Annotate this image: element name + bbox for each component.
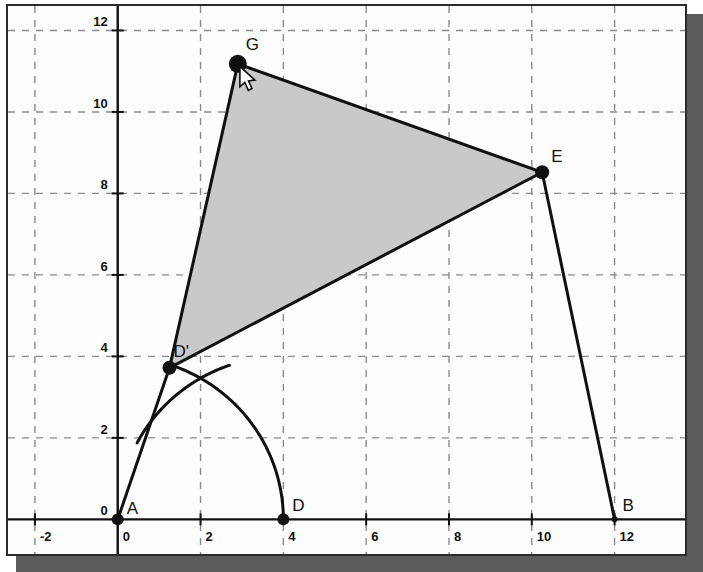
geometry-canvas[interactable]: ADBD'GE -2024681012024681012 <box>8 6 685 554</box>
x-tick-label: 4 <box>288 529 296 544</box>
y-tick-label: 0 <box>100 503 107 518</box>
y-tick-label: 10 <box>93 96 107 111</box>
shaded-triangle[interactable] <box>169 64 542 368</box>
x-tick-label: 2 <box>206 529 213 544</box>
x-tick-label: 10 <box>537 529 551 544</box>
point-marker[interactable] <box>112 513 124 525</box>
application-window: ADBD'GE -2024681012024681012 <box>0 0 703 572</box>
x-tick-label: 6 <box>371 529 378 544</box>
shaded-triangle[interactable] <box>169 64 542 368</box>
point-label: E <box>551 147 562 166</box>
point-label: D' <box>173 342 189 361</box>
x-tick-label: -2 <box>40 529 52 544</box>
segment-A-Dp[interactable] <box>118 368 170 520</box>
point-marker[interactable] <box>162 361 176 375</box>
y-tick-label: 4 <box>100 340 108 355</box>
point-label: B <box>623 496 634 515</box>
arc-centered-at-D[interactable] <box>137 365 229 443</box>
graphics-view-frame[interactable]: ADBD'GE -2024681012024681012 <box>6 4 687 556</box>
arcs-group[interactable] <box>137 365 283 519</box>
point-label: G <box>246 35 259 54</box>
x-tick-label: 8 <box>454 529 461 544</box>
point-A[interactable]: A <box>112 499 139 525</box>
x-tick-label: 0 <box>123 529 130 544</box>
y-tick-label: 6 <box>100 259 107 274</box>
point-marker[interactable] <box>277 513 289 525</box>
axes-group <box>8 6 685 554</box>
point-E[interactable]: E <box>535 147 562 179</box>
y-tick-label: 12 <box>93 14 107 29</box>
point-marker[interactable] <box>535 165 549 179</box>
y-tick-label: 8 <box>100 177 107 192</box>
point-marker[interactable] <box>612 516 618 522</box>
y-tick-label: 2 <box>100 422 107 437</box>
x-tick-label: 12 <box>620 529 634 544</box>
gridlines-group <box>8 6 685 554</box>
point-label: A <box>127 499 139 518</box>
point-G[interactable]: G <box>229 35 259 73</box>
point-label: D <box>292 496 304 515</box>
segment-E-B[interactable] <box>542 172 614 519</box>
